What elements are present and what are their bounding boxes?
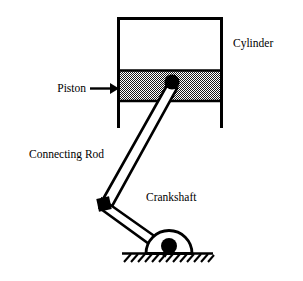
piston-pointer-arrow (90, 83, 119, 94)
crank-pin-joint (96, 196, 111, 211)
wrist-pin-joint (164, 74, 179, 89)
ground-hatching (124, 254, 214, 262)
engine-schematic-svg: Cylinder Piston Connecting Rod Crankshaf… (0, 0, 303, 281)
label-piston: Piston (57, 82, 86, 94)
label-cylinder: Cylinder (233, 37, 273, 50)
label-crankshaft: Crankshaft (146, 191, 197, 203)
label-connecting-rod: Connecting Rod (29, 148, 104, 161)
bearing-hub (161, 238, 177, 254)
engine-diagram: Cylinder Piston Connecting Rod Crankshaf… (0, 0, 303, 281)
ground-group (122, 254, 214, 263)
